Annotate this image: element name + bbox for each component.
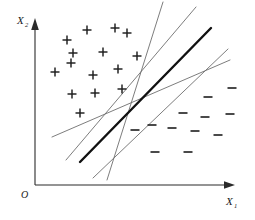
y-axis-label: X	[16, 14, 25, 26]
x-axis-label: X	[225, 195, 234, 207]
plus-marker	[89, 71, 98, 80]
plus-marker	[67, 59, 76, 68]
plus-marker	[99, 48, 108, 57]
figure-canvas: X 2 X 1 O	[0, 0, 255, 220]
x-axis-label-subscript: 1	[234, 202, 237, 209]
plus-marker	[63, 36, 72, 45]
data-points-group	[51, 24, 237, 153]
separating-lines-group	[52, 2, 230, 180]
plus-marker	[118, 85, 127, 94]
plus-marker	[133, 52, 142, 61]
plus-marker	[68, 90, 77, 99]
plus-marker	[123, 29, 132, 38]
plus-marker	[69, 49, 78, 58]
plus-marker	[83, 26, 92, 35]
plus-marker	[91, 89, 100, 98]
scatter-figure: X 2 X 1 O	[0, 0, 255, 220]
plus-marker	[51, 68, 60, 77]
plus-marker	[76, 109, 85, 118]
y-axis-arrow-icon	[31, 18, 39, 30]
origin-label: O	[21, 189, 28, 200]
candidate-line-4	[93, 49, 228, 178]
y-axis-label-subscript: 2	[25, 21, 29, 28]
axes-group	[31, 18, 235, 189]
x-axis-arrow-icon	[224, 181, 235, 189]
axis-labels-group: X 2 X 1 O	[16, 14, 237, 209]
plus-marker	[114, 65, 123, 74]
optimal-separator	[80, 28, 211, 162]
plus-marker	[111, 24, 120, 33]
